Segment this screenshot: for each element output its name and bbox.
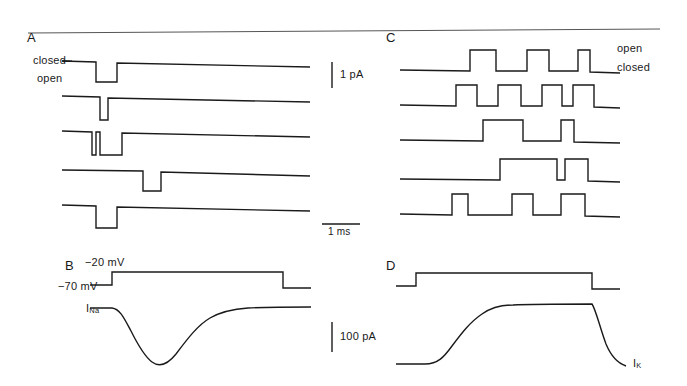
ina-subscript: Na: [89, 306, 99, 315]
panel-a-trace-5: [62, 205, 310, 228]
panel-a-trace-3: [62, 131, 310, 155]
panel-d-ik-trace: [396, 304, 626, 366]
horizontal-rule: [28, 29, 660, 33]
panel-letter-a: A: [27, 30, 36, 45]
panel-letter-d: D: [386, 258, 396, 273]
panel-c-trace-2: [400, 85, 620, 108]
panel-a-label-closed: closed: [33, 54, 66, 66]
panel-d-label-ik: IK: [633, 357, 641, 370]
figure-canvas: [0, 0, 687, 386]
panel-c-label-closed: closed: [617, 61, 650, 73]
panel-c-traces: [400, 50, 620, 217]
panel-a-traces: [62, 61, 310, 228]
panel-c-trace-4: [400, 159, 620, 182]
scale-label-1ms: 1 ms: [328, 226, 350, 237]
panel-b-label-depolarized-voltage: −20 mV: [85, 256, 124, 268]
panel-letter-c: C: [386, 30, 396, 45]
panel-c-trace-1: [400, 50, 620, 73]
panel-d-traces: [396, 273, 626, 366]
panel-c-trace-3: [400, 120, 620, 143]
ik-subscript: K: [636, 361, 641, 370]
panel-d-voltage-command: [396, 273, 620, 289]
panel-letter-b: B: [65, 258, 74, 273]
panel-b-ina-trace: [90, 307, 311, 365]
panel-a-label-open: open: [37, 72, 62, 84]
scale-label-100pa: 100 pA: [340, 330, 376, 342]
panel-a-trace-2: [62, 96, 310, 120]
panel-c-label-open: open: [617, 42, 642, 54]
panel-c-trace-5: [400, 194, 620, 217]
panel-a-trace-1: [62, 61, 310, 82]
panel-b-voltage-command: [90, 272, 311, 288]
scale-bars: [322, 62, 360, 352]
panel-a-trace-4: [62, 170, 310, 191]
panel-b-label-holding-voltage: −70 mV: [58, 280, 97, 292]
panel-b-label-ina: INa: [86, 302, 99, 315]
panel-b-traces: [90, 272, 311, 365]
scale-label-1pa: 1 pA: [340, 68, 363, 80]
electrophysiology-figure: A B C D closed open open closed −20 mV −…: [0, 0, 687, 386]
